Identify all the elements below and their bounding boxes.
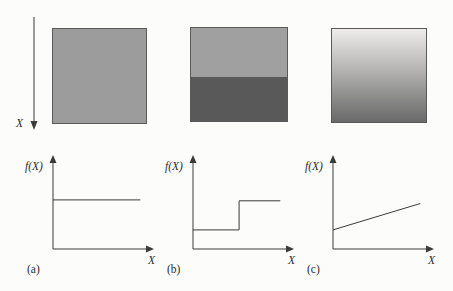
step-intensity-line xyxy=(193,201,280,230)
two-tone-square xyxy=(190,27,288,122)
plot-b-step-profile: f(X) X (b) xyxy=(159,151,299,276)
plot-a-constant-profile: f(X) X (a) xyxy=(19,151,159,276)
uniform-gray-square xyxy=(52,28,147,124)
panel-label: (a) xyxy=(27,263,40,276)
arrow-up-icon xyxy=(330,155,337,163)
two-tone-square-light-half xyxy=(191,28,287,77)
x-axis-label: X xyxy=(427,254,436,266)
panel-label: (c) xyxy=(307,263,320,276)
x-direction-arrow xyxy=(26,16,42,138)
panel-label: (b) xyxy=(167,263,181,276)
two-tone-square-dark-half xyxy=(191,77,287,121)
x-axis-label: X xyxy=(147,254,156,266)
arrow-down-icon xyxy=(31,121,38,130)
y-axis-label: f(X) xyxy=(25,160,43,173)
x-axis-label: X xyxy=(287,254,296,266)
figure-intensity-profiles: X f(X) X (a) f(X) X (b) f(X) X (c) xyxy=(0,0,453,291)
y-axis-label: f(X) xyxy=(305,160,323,173)
ramp-intensity-line xyxy=(333,204,420,230)
left-axis-label: X xyxy=(16,117,23,129)
arrow-right-icon xyxy=(426,246,434,253)
arrow-up-icon xyxy=(50,155,57,163)
arrow-right-icon xyxy=(286,246,294,253)
gradient-square xyxy=(331,28,427,123)
plot-c-ramp-profile: f(X) X (c) xyxy=(299,151,439,276)
y-axis-label: f(X) xyxy=(165,160,183,173)
arrow-up-icon xyxy=(190,155,197,163)
arrow-right-icon xyxy=(146,246,154,253)
